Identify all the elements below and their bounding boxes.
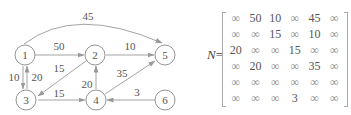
matrix-cell-2-3: 15	[265, 26, 285, 42]
node-5: 5	[155, 45, 175, 65]
weight-4-2: 20	[82, 78, 94, 90]
node-6: 6	[155, 90, 175, 110]
matrix-cell-6-6: ∞	[324, 90, 344, 106]
matrix-cell-4-6: ∞	[324, 58, 344, 74]
edge-1-5	[24, 24, 162, 44]
matrix-cell-5-3: ∞	[265, 74, 285, 90]
directed-graph: 45 50 10 15 10 20 15 20 35 3 1 2 3 4 5 6	[0, 0, 200, 115]
matrix-cell-3-3: ∞	[265, 42, 285, 58]
matrix-cell-6-1: ∞	[226, 90, 246, 106]
svg-text:2: 2	[92, 49, 98, 61]
matrix-cell-6-3: ∞	[265, 90, 285, 106]
weight-4-5: 35	[117, 67, 129, 79]
matrix-cell-2-5: 10	[305, 26, 325, 42]
matrix-cell-3-2: ∞	[246, 42, 266, 58]
weight-6-4: 3	[134, 86, 140, 98]
matrix-cell-5-1: ∞	[226, 74, 246, 90]
matrix-cell-4-5: 35	[305, 58, 325, 74]
matrix-cell-1-3: 10	[265, 10, 285, 26]
matrix-cell-1-1: ∞	[226, 10, 246, 26]
weight-3-4: 15	[54, 87, 66, 99]
matrix-cell-4-3: ∞	[265, 58, 285, 74]
weight-2-5: 10	[125, 40, 137, 52]
matrix-cell-3-5: ∞	[305, 42, 325, 58]
matrix-cell-5-4: ∞	[285, 74, 305, 90]
matrix-cell-5-6: ∞	[324, 74, 344, 90]
matrix-cell-5-5: ∞	[305, 74, 325, 90]
node-4: 4	[86, 90, 106, 110]
matrix-cell-1-5: 45	[305, 10, 325, 26]
matrix-cell-4-4: ∞	[285, 58, 305, 74]
matrix-cell-3-6: ∞	[324, 42, 344, 58]
right-bracket	[344, 12, 348, 107]
matrix-cell-5-2: ∞	[246, 74, 266, 90]
matrix-cell-2-2: ∞	[246, 26, 266, 42]
edge-4-5	[105, 61, 155, 94]
weight-2-3: 15	[54, 62, 66, 74]
matrix-cell-1-6: ∞	[324, 10, 344, 26]
svg-text:1: 1	[22, 49, 28, 61]
matrix-cell-2-1: ∞	[226, 26, 246, 42]
svg-text:6: 6	[162, 94, 168, 106]
matrix-label: N=	[207, 47, 223, 63]
weight-1-3: 10	[9, 71, 21, 83]
weight-1-5: 45	[83, 10, 95, 22]
matrix-cell-3-1: 20	[226, 42, 246, 58]
node-1: 1	[15, 45, 35, 65]
svg-text:5: 5	[162, 49, 168, 61]
matrix-cell-6-2: ∞	[246, 90, 266, 106]
matrix-cell-3-4: 15	[285, 42, 305, 58]
matrix-cell-4-2: 20	[246, 58, 266, 74]
weight-3-1: 20	[32, 71, 44, 83]
node-3: 3	[16, 90, 36, 110]
matrix-cell-1-4: ∞	[285, 10, 305, 26]
matrix-cell-2-6: ∞	[324, 26, 344, 42]
weight-1-2: 50	[54, 40, 66, 52]
matrix-cell-2-4: ∞	[285, 26, 305, 42]
matrix-cell-6-4: 3	[285, 90, 305, 106]
matrix-cell-6-5: ∞	[305, 90, 325, 106]
node-2: 2	[85, 45, 105, 65]
svg-text:4: 4	[93, 94, 99, 106]
matrix-cell-4-1: ∞	[226, 58, 246, 74]
adjacency-matrix: N= ∞5010∞45∞∞∞15∞10∞20∞∞15∞∞∞20∞∞35∞∞∞∞∞…	[200, 0, 351, 115]
svg-text:3: 3	[23, 94, 29, 106]
matrix-cell-1-2: 50	[246, 10, 266, 26]
matrix-grid: ∞5010∞45∞∞∞15∞10∞20∞∞15∞∞∞20∞∞35∞∞∞∞∞∞∞∞…	[226, 10, 344, 106]
